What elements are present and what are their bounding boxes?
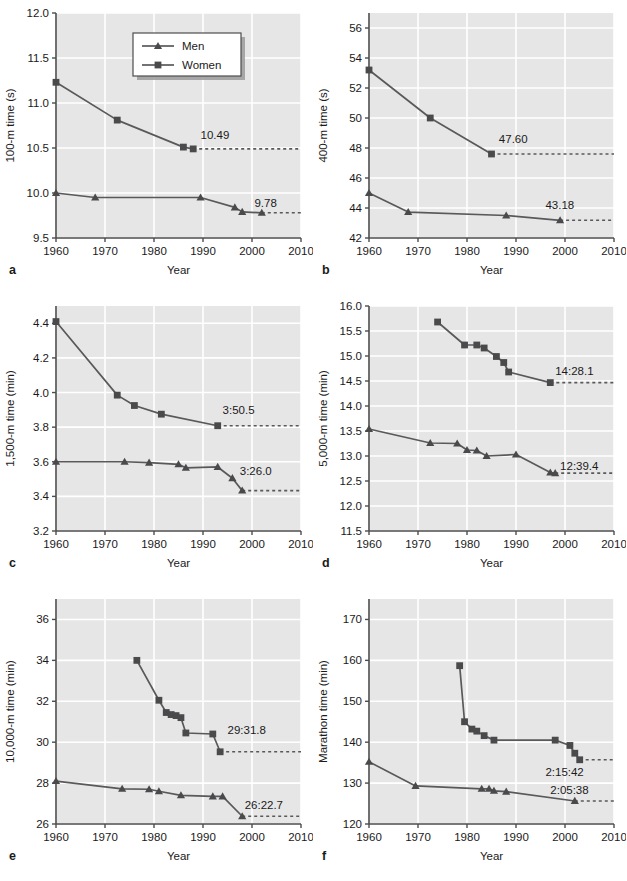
panel-letter-d: d bbox=[322, 556, 330, 570]
x-tick-label: 2000 bbox=[552, 245, 578, 257]
legend-item-women: Women bbox=[182, 59, 221, 71]
data-point-square bbox=[217, 748, 224, 755]
y-tick-label: 54 bbox=[349, 52, 362, 64]
plot-background-d bbox=[369, 306, 614, 531]
x-tick-label: 2010 bbox=[601, 538, 626, 550]
record-annotation: 12:39.4 bbox=[560, 460, 599, 472]
y-tick-label: 4.2 bbox=[33, 352, 49, 364]
x-tick-label: 2000 bbox=[239, 245, 265, 257]
data-point-square bbox=[427, 115, 434, 122]
y-tick-label: 12.0 bbox=[27, 7, 49, 19]
y-axis-title-b: 400-m time (s) bbox=[317, 88, 329, 162]
chart-panel-e: 262830323436196019701980199020002010Year… bbox=[0, 586, 313, 879]
y-tick-label: 150 bbox=[343, 695, 362, 707]
x-tick-label: 1960 bbox=[356, 831, 382, 843]
x-tick-label: 1980 bbox=[454, 831, 480, 843]
data-point-square bbox=[505, 369, 512, 376]
data-point-square bbox=[156, 697, 163, 704]
y-tick-label: 14.5 bbox=[340, 375, 362, 387]
data-point-square bbox=[114, 392, 121, 399]
panel-letter-e: e bbox=[9, 849, 16, 863]
y-tick-label: 42 bbox=[349, 232, 362, 244]
chart-panel-a: 9.510.010.511.011.512.019601970198019902… bbox=[0, 0, 313, 293]
x-tick-label: 2010 bbox=[288, 245, 313, 257]
y-axis-title-e: 10,000-m time (min) bbox=[4, 660, 16, 763]
x-axis-title-f: Year bbox=[480, 850, 503, 862]
x-tick-label: 1980 bbox=[141, 245, 167, 257]
record-annotation: 26:22.7 bbox=[245, 799, 283, 811]
x-tick-label: 1990 bbox=[503, 831, 529, 843]
x-tick-label: 1990 bbox=[190, 245, 216, 257]
chart-panel-c: 3.23.43.63.84.04.24.41960197019801990200… bbox=[0, 293, 313, 586]
x-tick-label: 1960 bbox=[356, 245, 382, 257]
y-axis-title-d: 5,000-m time (min) bbox=[317, 370, 329, 467]
panel-letter-a: a bbox=[9, 263, 17, 277]
x-tick-label: 1990 bbox=[190, 538, 216, 550]
x-tick-label: 1960 bbox=[356, 538, 382, 550]
y-tick-label: 14.0 bbox=[340, 400, 362, 412]
data-point-square bbox=[571, 750, 578, 757]
x-tick-label: 1960 bbox=[43, 831, 69, 843]
y-tick-label: 3.2 bbox=[33, 525, 49, 537]
x-tick-label: 2000 bbox=[552, 538, 578, 550]
data-point-square bbox=[481, 345, 488, 352]
y-tick-label: 3.4 bbox=[33, 490, 50, 502]
data-point-square bbox=[133, 657, 140, 664]
plot-background-b bbox=[369, 13, 614, 238]
y-tick-label: 130 bbox=[343, 777, 362, 789]
x-axis-title-c: Year bbox=[167, 557, 190, 569]
y-tick-label: 13.0 bbox=[340, 450, 362, 462]
x-axis-title-d: Year bbox=[480, 557, 503, 569]
y-tick-label: 13.5 bbox=[340, 425, 362, 437]
data-point-square bbox=[473, 728, 480, 735]
y-tick-label: 9.5 bbox=[33, 232, 49, 244]
y-tick-label: 28 bbox=[36, 777, 49, 789]
y-tick-label: 30 bbox=[36, 736, 49, 748]
x-tick-label: 2000 bbox=[239, 538, 265, 550]
data-point-square bbox=[114, 117, 121, 124]
x-tick-label: 2010 bbox=[601, 831, 626, 843]
x-tick-label: 1980 bbox=[141, 831, 167, 843]
record-annotation: 43.18 bbox=[545, 199, 574, 211]
data-point-square bbox=[491, 737, 498, 744]
x-tick-label: 1970 bbox=[92, 831, 118, 843]
y-tick-label: 15.0 bbox=[340, 350, 362, 362]
y-axis-title-f: Marathon time (min) bbox=[317, 660, 329, 763]
world-record-progression-figure: 9.510.010.511.011.512.019601970198019902… bbox=[0, 0, 627, 881]
y-tick-label: 56 bbox=[349, 22, 362, 34]
data-point-square bbox=[500, 359, 507, 366]
x-tick-label: 2010 bbox=[601, 245, 626, 257]
y-tick-label: 12.0 bbox=[340, 500, 362, 512]
x-tick-label: 1970 bbox=[92, 245, 118, 257]
x-tick-label: 2010 bbox=[288, 538, 313, 550]
data-point-square bbox=[366, 67, 373, 74]
y-tick-label: 120 bbox=[343, 818, 362, 830]
data-point-square bbox=[456, 662, 463, 669]
x-tick-label: 1980 bbox=[141, 538, 167, 550]
x-tick-label: 1990 bbox=[503, 538, 529, 550]
y-tick-label: 10.0 bbox=[27, 187, 49, 199]
y-tick-label: 46 bbox=[349, 172, 362, 184]
x-tick-label: 1990 bbox=[190, 831, 216, 843]
data-point-square bbox=[567, 742, 574, 749]
y-tick-label: 15.5 bbox=[340, 325, 362, 337]
record-annotation: 3:50.5 bbox=[223, 404, 255, 416]
plot-background-e bbox=[56, 599, 301, 824]
panel-letter-b: b bbox=[322, 263, 330, 277]
record-annotation: 14:28.1 bbox=[555, 365, 593, 377]
data-point-square bbox=[214, 422, 221, 429]
y-tick-label: 34 bbox=[36, 654, 49, 666]
y-tick-label: 26 bbox=[36, 818, 49, 830]
chart-panel-d: 11.512.012.513.013.514.014.515.015.516.0… bbox=[313, 293, 626, 586]
x-tick-label: 1990 bbox=[503, 245, 529, 257]
y-tick-label: 50 bbox=[349, 112, 362, 124]
y-tick-label: 170 bbox=[343, 613, 362, 625]
data-point-square bbox=[461, 342, 468, 349]
chart-panel-f: 1201301401501601701960197019801990200020… bbox=[313, 586, 626, 879]
y-tick-label: 11.0 bbox=[27, 97, 49, 109]
legend: MenWomen bbox=[133, 33, 245, 80]
y-tick-label: 36 bbox=[36, 613, 49, 625]
x-tick-label: 1960 bbox=[43, 245, 69, 257]
y-tick-label: 3.6 bbox=[33, 456, 49, 468]
record-annotation: 47.60 bbox=[499, 133, 528, 145]
